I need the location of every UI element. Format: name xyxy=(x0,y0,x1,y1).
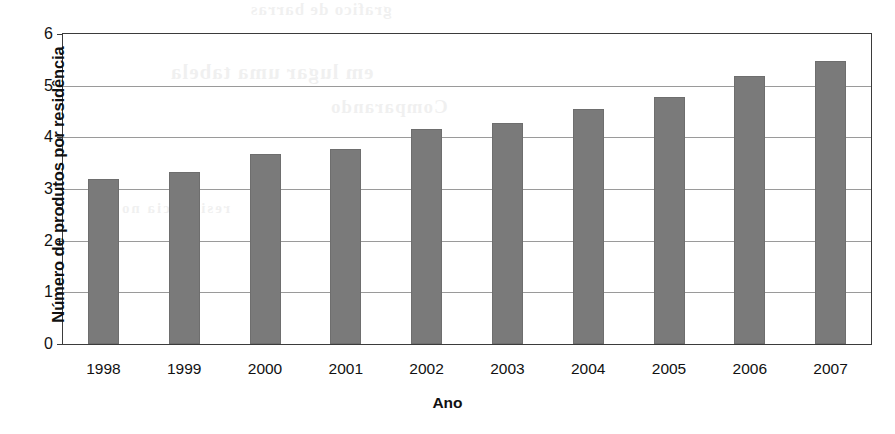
x-axis-tick-label: 1999 xyxy=(167,360,201,378)
x-axis-tick-label: 2006 xyxy=(733,360,767,378)
y-axis-title: Número de produtos por residência xyxy=(49,20,68,350)
bar-2000 xyxy=(250,154,281,344)
x-axis-tick-label: 2007 xyxy=(813,360,847,378)
x-axis-tick-label: 2003 xyxy=(490,360,524,378)
bleedthrough-text-c: grafico de barras xyxy=(250,0,392,20)
x-axis-tick-label: 1998 xyxy=(86,360,120,378)
x-axis-tick-label: 2005 xyxy=(652,360,686,378)
bar-2004 xyxy=(573,109,604,344)
bar-1998 xyxy=(88,179,119,344)
bar-2002 xyxy=(411,129,442,344)
bar-group xyxy=(63,34,871,344)
bar-2006 xyxy=(734,76,765,344)
bar-2005 xyxy=(654,97,685,344)
bar-chart-figure: em lugar uma tabela Comparando grafico d… xyxy=(0,0,895,434)
bar-1999 xyxy=(169,172,200,344)
bar-2001 xyxy=(330,149,361,344)
x-axis-tick-label: 2004 xyxy=(571,360,605,378)
x-axis-tick-label: 2001 xyxy=(329,360,363,378)
bar-2003 xyxy=(492,123,523,344)
plot-area: 0123456 19981999200020012002200320042005… xyxy=(62,33,872,345)
x-axis-title: Ano xyxy=(0,394,895,412)
x-axis-tick-label: 2002 xyxy=(409,360,443,378)
x-axis-tick-label: 2000 xyxy=(248,360,282,378)
bar-2007 xyxy=(815,61,846,344)
